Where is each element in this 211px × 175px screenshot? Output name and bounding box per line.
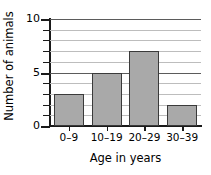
y-axis-tick-label: 10 — [14, 13, 40, 24]
x-axis-tick-label: 10–19 — [88, 132, 126, 143]
y-axis-tick — [43, 105, 50, 106]
bar — [167, 105, 197, 126]
y-axis-tick — [43, 83, 50, 84]
y-axis-tick — [43, 30, 50, 31]
y-axis-tick-label: 5 — [14, 67, 40, 78]
gridline — [50, 40, 201, 41]
y-axis-tick — [41, 19, 50, 21]
gridline — [50, 62, 201, 63]
bar — [54, 94, 84, 126]
gridline — [50, 30, 201, 31]
bar — [92, 73, 122, 127]
y-axis-tick — [43, 51, 50, 52]
y-axis-tick — [43, 40, 50, 41]
y-axis-tick — [41, 126, 50, 128]
gridline — [50, 51, 201, 52]
bar-chart: Number of animals Age in years 05100–910… — [0, 0, 211, 175]
y-axis-tick — [43, 115, 50, 116]
plot-area — [50, 19, 201, 126]
y-axis-tick — [41, 73, 50, 75]
gridline — [50, 19, 201, 20]
gridline — [50, 73, 201, 74]
x-axis-title: Age in years — [50, 151, 201, 165]
y-axis-tick — [43, 94, 50, 95]
y-axis-tick-label: 0 — [14, 120, 40, 131]
x-axis-tick-label: 0–9 — [50, 132, 88, 143]
gridline — [50, 83, 201, 84]
x-axis-tick-label: 30–39 — [163, 132, 201, 143]
x-axis-tick-label: 20–29 — [126, 132, 164, 143]
y-axis-tick — [43, 62, 50, 63]
bar — [129, 51, 159, 126]
